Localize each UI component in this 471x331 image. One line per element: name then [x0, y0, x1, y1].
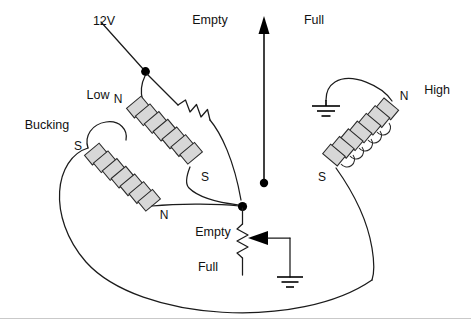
coil-bucking: S N	[74, 122, 239, 222]
coil-low-core	[127, 96, 203, 164]
pole-label-low-n: N	[114, 92, 123, 106]
label-coil-low: Low	[87, 88, 111, 102]
footer-divider	[0, 318, 471, 319]
coil-high: N S	[318, 79, 408, 280]
wire-bucking-n-to-common	[152, 204, 239, 206]
label-supply-12v: 12V	[93, 14, 116, 28]
wire-high-coil-s-lead	[336, 168, 374, 280]
pole-label-bucking-n: N	[160, 208, 169, 222]
ground-high-coil	[312, 100, 340, 116]
label-gauge-empty: Empty	[192, 13, 228, 27]
label-pot-full: Full	[198, 260, 218, 274]
needle-arrowhead-icon	[259, 16, 270, 34]
pot-resistive-element	[237, 224, 248, 258]
sender-potentiometer	[237, 208, 290, 277]
label-gauge-full: Full	[304, 13, 324, 27]
series-resistor-zigzag	[178, 100, 210, 120]
pot-wiper-arrowhead-icon	[248, 231, 268, 245]
supply-feed	[101, 22, 178, 105]
ground-potentiometer-wiper	[277, 277, 303, 287]
gauge-needle	[259, 16, 270, 187]
label-pot-empty: Empty	[195, 225, 231, 239]
label-coil-bucking: Bucking	[25, 118, 70, 132]
coil-high-core	[323, 98, 399, 166]
wire-junction-to-resistor	[147, 74, 178, 105]
pole-label-high-s: S	[318, 170, 326, 184]
wire-bucking-s-lead	[87, 122, 126, 148]
diagram-canvas: N S	[0, 0, 471, 331]
wire-high-coil-n-to-ground	[326, 79, 392, 101]
wire-12v-to-junction	[101, 22, 144, 70]
wire-low-coil-s-to-common	[186, 167, 239, 205]
pole-label-low-s: S	[201, 170, 209, 184]
label-coil-high: High	[424, 83, 450, 97]
pole-label-high-n: N	[400, 89, 409, 103]
circuit-diagram: N S	[0, 0, 471, 331]
coil-bucking-core	[85, 143, 161, 211]
junction-12v-low-coil	[141, 67, 150, 76]
needle-pivot	[260, 179, 268, 187]
wire-resistor-to-common	[210, 120, 241, 200]
